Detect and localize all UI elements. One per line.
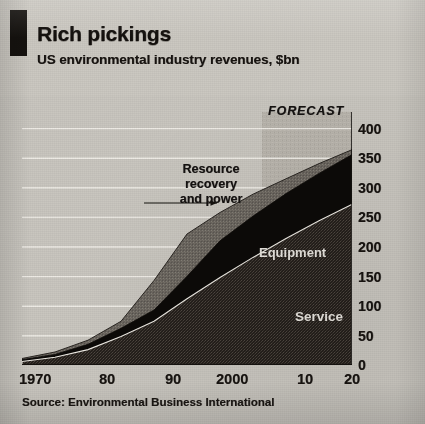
y-tick-50: 50 (358, 328, 402, 344)
resource-label-line3: and power (180, 192, 243, 206)
service-label: Service (295, 309, 343, 324)
title-rule-marker (10, 10, 27, 56)
chart-svg (22, 112, 352, 365)
forecast-label: FORECAST (268, 104, 344, 118)
header-band (0, 0, 425, 96)
source-note: Source: Environmental Business Internati… (22, 396, 274, 408)
y-tick-150: 150 (358, 269, 402, 285)
chart-subtitle: US environmental industry revenues, $bn (37, 52, 299, 67)
page-title: Rich pickings (37, 22, 171, 46)
x-tick-2010: 10 (297, 371, 313, 387)
y-tick-300: 300 (358, 180, 402, 196)
x-tick-2000: 2000 (216, 371, 248, 387)
x-tick-1970: 1970 (19, 371, 51, 387)
x-tick-1980: 80 (99, 371, 115, 387)
y-tick-0: 0 (358, 357, 402, 373)
resource-label-line2: recovery (185, 177, 237, 191)
y-tick-250: 250 (358, 209, 402, 225)
y-tick-200: 200 (358, 239, 402, 255)
x-tick-1990: 90 (165, 371, 181, 387)
plot-area (22, 112, 352, 365)
resource-recovery-label: Resource recovery and power (159, 162, 263, 207)
y-tick-400: 400 (358, 121, 402, 137)
chart-figure: Rich pickings US environmental industry … (0, 0, 425, 424)
resource-label-line1: Resource (183, 162, 240, 176)
y-tick-350: 350 (358, 150, 402, 166)
x-tick-2020: 20 (344, 371, 360, 387)
equipment-label: Equipment (259, 245, 326, 260)
y-tick-100: 100 (358, 298, 402, 314)
